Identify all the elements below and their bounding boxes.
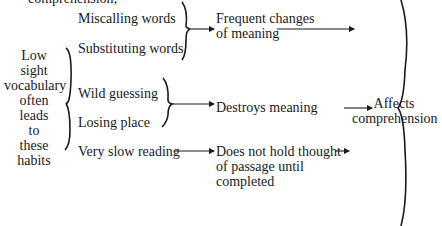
connector-lines: [0, 0, 442, 226]
brace-1: [182, 2, 190, 60]
brace-cause: [66, 48, 71, 103]
brace-result: [398, 0, 407, 226]
brace-cause-lower: [65, 103, 70, 150]
brace-2: [162, 78, 172, 127]
